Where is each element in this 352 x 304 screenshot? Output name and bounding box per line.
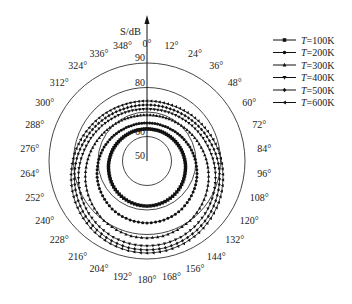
diamond-marker-icon xyxy=(118,108,121,112)
square-marker-icon xyxy=(148,204,151,207)
circle-marker-icon xyxy=(97,161,100,164)
triangle-left-marker-icon xyxy=(126,249,129,252)
polar-chart: S/dB 50608090 0°12°24°36°48°60°72°84°96°… xyxy=(0,0,352,304)
triangle-down-marker-icon xyxy=(78,162,81,165)
triangle-down-marker-icon xyxy=(184,120,187,123)
circle-marker-icon xyxy=(188,198,191,201)
circle-marker-icon xyxy=(194,183,197,186)
triangle-left-marker-icon xyxy=(170,247,173,250)
triangle-left-marker-icon xyxy=(209,217,212,220)
diamond-marker-icon xyxy=(218,172,221,176)
diamond-marker-icon xyxy=(169,107,172,111)
diamond-marker-icon xyxy=(121,244,124,248)
diamond-marker-icon xyxy=(107,114,110,118)
circle-marker-icon xyxy=(103,198,106,201)
triangle-up-marker-icon xyxy=(207,170,210,173)
diamond-marker-icon xyxy=(75,157,78,161)
diamond-marker-icon xyxy=(218,183,221,187)
circle-marker-icon xyxy=(137,221,140,224)
diamond-marker-icon xyxy=(181,239,184,243)
triangle-down-marker-icon xyxy=(107,120,110,123)
diamond-marker-icon xyxy=(138,103,141,107)
triangle-left-marker-icon xyxy=(85,222,88,225)
diamond-marker-icon xyxy=(126,106,129,110)
triangle-down-marker-icon xyxy=(77,167,80,170)
triangle-left-marker-icon xyxy=(170,104,173,107)
radial-axis-label: S/dB xyxy=(120,26,141,37)
triangle-down-marker-icon xyxy=(77,177,80,180)
diamond-marker-icon xyxy=(127,246,130,250)
triangle-left-marker-icon xyxy=(84,130,87,133)
diamond-marker-icon xyxy=(77,199,80,203)
triangle-up-marker-icon xyxy=(88,153,91,156)
legend-label: T=600K xyxy=(301,97,335,108)
radial-tick-labels: 50608090 xyxy=(135,52,145,161)
circle-marker-icon xyxy=(183,138,186,141)
triangle-left-marker-icon xyxy=(158,100,161,103)
triangle-down-marker-icon xyxy=(214,177,217,180)
legend-item: T=500K xyxy=(273,85,335,96)
circle-marker-icon xyxy=(159,123,162,126)
diamond-marker-icon xyxy=(157,104,160,108)
diamond-marker-icon xyxy=(164,246,167,250)
circle-marker-icon xyxy=(96,168,99,171)
circle-marker-icon xyxy=(101,194,104,197)
triangle-left-marker-icon xyxy=(120,247,123,250)
triangle-left-marker-icon xyxy=(132,250,135,253)
angle-tick-label: 240° xyxy=(35,215,54,226)
angle-tick-label: 288° xyxy=(25,119,44,130)
circle-marker-icon xyxy=(95,172,98,175)
angle-tick-label: 12° xyxy=(165,40,179,51)
triangle-left-marker-icon xyxy=(162,101,165,104)
circle-marker-icon xyxy=(166,217,169,220)
axis-arrow-icon xyxy=(145,15,150,24)
circle-marker-icon xyxy=(143,122,146,125)
triangle-left-marker-icon xyxy=(166,102,169,105)
circle-marker-icon xyxy=(151,122,154,125)
legend-label: T=200K xyxy=(301,47,335,58)
circle-marker-icon xyxy=(132,123,135,126)
triangle-left-marker-icon xyxy=(137,100,140,103)
triangle-left-marker-icon xyxy=(124,102,127,105)
triangle-left-marker-icon xyxy=(164,249,167,252)
triangle-up-marker-icon xyxy=(84,166,87,169)
circle-marker-icon xyxy=(135,123,138,126)
angle-tick-label: 228° xyxy=(50,234,69,245)
triangle-up-marker-icon xyxy=(85,188,88,191)
circle-marker-icon xyxy=(133,220,136,223)
angle-tick-label: 24° xyxy=(188,48,202,59)
circle-marker-icon xyxy=(114,210,117,213)
circle-marker-icon xyxy=(161,124,164,127)
radial-tick-label: 50 xyxy=(135,150,145,161)
triangle-up-marker-icon xyxy=(207,175,210,178)
triangle-up-marker-icon xyxy=(202,198,205,201)
triangle-down-marker-icon xyxy=(107,233,110,236)
triangle-left-marker-icon xyxy=(152,251,155,254)
diamond-marker-icon xyxy=(153,103,156,107)
diamond-marker-icon xyxy=(158,247,161,251)
angle-tick-label: 216° xyxy=(68,251,87,262)
circle-marker-icon xyxy=(150,221,153,224)
triangle-up-marker-icon xyxy=(85,161,88,164)
triangle-down-marker-icon xyxy=(208,149,211,152)
circle-marker-icon xyxy=(195,176,198,179)
diamond-marker-icon xyxy=(184,114,187,118)
angle-tick-label: 336° xyxy=(90,48,109,59)
triangle-up-marker-icon xyxy=(203,153,206,156)
angle-tick-labels: 0°12°24°36°48°60°72°84°96°108°120°132°14… xyxy=(20,38,271,285)
circle-marker-icon xyxy=(127,125,130,128)
square-marker-icon xyxy=(143,127,146,130)
triangle-left-marker-icon xyxy=(158,250,161,253)
diamond-marker-icon xyxy=(111,112,114,116)
angle-tick-label: 204° xyxy=(90,263,109,274)
legend-label: T=400K xyxy=(301,72,335,83)
legend-item: T=100K xyxy=(273,35,335,46)
angle-tick-label: 168° xyxy=(162,271,181,282)
diamond-marker-icon xyxy=(216,193,219,197)
triangle-up-marker-icon xyxy=(205,188,208,191)
circle-marker-icon xyxy=(162,218,165,221)
triangle-down-marker-icon xyxy=(213,167,216,170)
triangle-left-marker-icon xyxy=(145,251,148,254)
circle-marker-icon xyxy=(117,213,120,216)
circle-marker-icon xyxy=(97,183,100,186)
